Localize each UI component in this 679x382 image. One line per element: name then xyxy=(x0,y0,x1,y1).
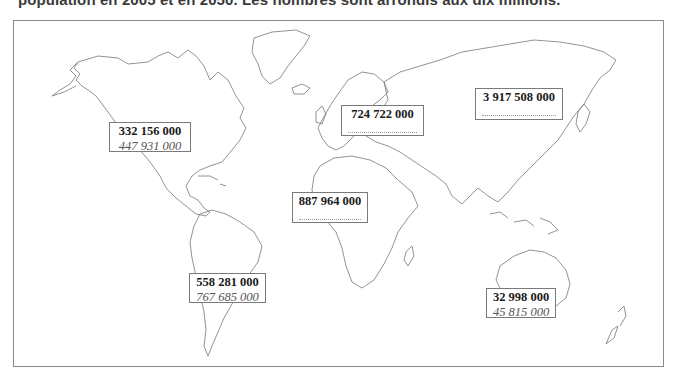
population-2005-value: 558 281 000 xyxy=(194,275,261,290)
population-box-africa: 887 964 000 xyxy=(292,192,368,223)
population-2005-value: 3 917 508 000 xyxy=(480,90,558,105)
population-box-oceania: 32 998 000 45 815 000 xyxy=(486,288,556,318)
world-map xyxy=(0,0,679,382)
population-box-south-america: 558 281 000 767 685 000 xyxy=(189,273,266,303)
population-2005-value: 332 156 000 xyxy=(114,124,186,139)
population-box-europe: 724 722 000 xyxy=(341,105,424,136)
population-2005-value: 724 722 000 xyxy=(346,107,419,122)
population-box-asia: 3 917 508 000 xyxy=(475,88,563,120)
population-2050-value: 447 931 000 xyxy=(114,139,186,153)
population-2050-blank[interactable] xyxy=(348,122,417,133)
population-2005-value: 32 998 000 xyxy=(491,290,551,305)
population-2005-value: 887 964 000 xyxy=(297,194,363,209)
population-box-north-america: 332 156 000 447 931 000 xyxy=(109,122,191,152)
population-2050-blank[interactable] xyxy=(482,105,556,116)
population-2050-blank[interactable] xyxy=(299,209,361,220)
population-2050-value: 767 685 000 xyxy=(194,290,261,304)
population-2050-value: 45 815 000 xyxy=(491,305,551,319)
